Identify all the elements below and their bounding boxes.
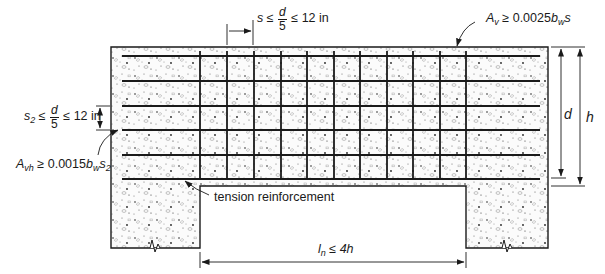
vertical-area-label: Av ≥ 0.0025bws xyxy=(486,12,571,25)
av-leader xyxy=(457,22,475,46)
clear-span-label: ln ≤ 4h xyxy=(318,243,354,256)
deep-beam-diagram xyxy=(0,0,605,274)
fraction-d-over-5: d5 xyxy=(50,104,59,130)
concrete-body xyxy=(111,47,548,248)
tension-reinforcement-label: tension reinforcement xyxy=(214,191,334,204)
overall-depth-label: h xyxy=(586,110,594,124)
fraction-d-over-5: d5 xyxy=(278,6,287,32)
stirrup-spacing-label: s ≤ d5 ≤ 12 in xyxy=(257,6,329,32)
effective-depth-label: d xyxy=(564,106,572,122)
stirrup-spacing-dimension xyxy=(227,20,253,45)
horizontal-area-label: Avh ≥ 0.0015bws2 xyxy=(16,158,111,171)
horizontal-spacing-label: s2 ≤ d5 ≤ 12 in xyxy=(24,104,101,130)
